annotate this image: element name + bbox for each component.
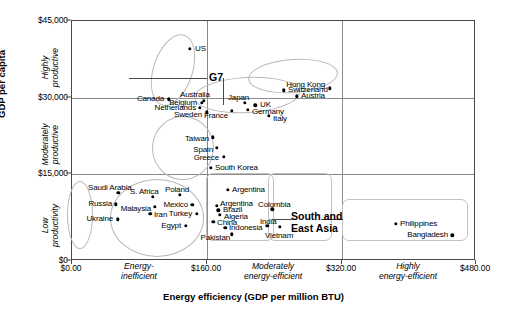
data-point-germany [246, 108, 249, 111]
x-band-moderately-energy-efficient: Moderately energy-efficient [244, 262, 302, 282]
point-label-south-korea: South Korea [215, 164, 258, 172]
point-label-poland: Poland [165, 186, 189, 194]
data-point-france [230, 109, 233, 112]
data-point-china [212, 220, 215, 223]
data-point-australia [202, 99, 205, 102]
data-point-bangladesh [451, 234, 454, 237]
data-point-brazil [217, 209, 220, 212]
data-point-argentina [215, 204, 218, 207]
gridline-x-320 [342, 21, 343, 259]
point-label-egypt: Egypt [161, 222, 181, 230]
data-point-iran [149, 212, 152, 215]
x-tick-0: $0.00 [61, 263, 82, 273]
x-tick-160: $160.00 [191, 263, 221, 273]
point-label-colombia: Colombia [258, 201, 291, 209]
data-point-hong-kong [328, 86, 331, 89]
point-label-argentina-upper: Argentina [232, 186, 265, 194]
point-label-saudi-arabia: Saudi Arabia [88, 184, 132, 192]
data-point-malaysia [153, 205, 156, 208]
data-point-algeria [218, 213, 221, 216]
data-point-mexico [191, 203, 194, 206]
leader-g7-vertical [223, 78, 224, 105]
data-point-turkey [195, 212, 198, 215]
x-tick-480: $480.00 [460, 263, 490, 273]
data-point-argentina-upper [226, 188, 229, 191]
data-point-philippines [394, 222, 397, 225]
plot-area: G7 South and East Asia US Canada Belgium… [71, 20, 475, 260]
gridline-y-15000 [72, 174, 474, 175]
data-point-indonesia [223, 226, 226, 229]
data-point-italy [267, 114, 270, 117]
energy-efficiency-scatter-chart: GDP per capita $45,000 $30,000 $15,000 $… [0, 0, 507, 313]
point-label-malaysia: Malaysia [121, 205, 151, 213]
x-tick-320: $320.00 [326, 263, 356, 273]
data-point-south-korea [209, 166, 212, 169]
data-point-spain [215, 146, 218, 149]
y-band-moderately-productive: Moderately productive [41, 115, 60, 175]
y-band-low-productivity: Low productivity [41, 196, 60, 256]
data-point-ukraine [116, 218, 119, 221]
data-point-vietnam [278, 225, 281, 228]
point-label-greece: Greece [194, 154, 219, 162]
leader-g7-horizontal [129, 78, 207, 79]
point-label-france: France [204, 112, 228, 120]
point-label-vietnam: Vietnam [265, 232, 293, 240]
data-point-us [188, 47, 191, 50]
point-label-japan: Japan [228, 94, 249, 102]
data-point-taiwan [211, 136, 214, 139]
point-label-turkey: Turkey [169, 210, 192, 218]
point-label-italy: Italy [273, 115, 287, 123]
data-point-greece [222, 155, 225, 158]
point-label-iran: Iran [154, 211, 167, 219]
annotation-g7: G7 [209, 71, 223, 83]
x-band-energy-inefficient: Energy- inefficient [121, 262, 157, 282]
point-label-bangladesh: Bangladesh [407, 231, 448, 239]
point-label-hong-kong: Hong Kong [286, 81, 325, 89]
point-label-sweden: Sweden [174, 111, 202, 119]
point-label-us: US [195, 45, 206, 53]
y-band-highly-productive: Highly productive [41, 38, 60, 98]
point-label-s-africa: S. Africa [130, 188, 158, 196]
point-label-indonesia: Indonesia [229, 224, 262, 232]
data-point-switzerland [282, 89, 285, 92]
point-label-philippines: Philippines [400, 220, 437, 228]
y-tick-45000: $45,000 [38, 15, 68, 25]
point-label-austria: Austria [301, 92, 325, 100]
x-axis-title: Energy efficiency (GDP per million BTU) [0, 291, 507, 302]
point-label-ukraine: Ukraine [86, 215, 113, 223]
point-label-taiwan: Taiwan [185, 135, 209, 143]
point-label-australia: Australia [180, 91, 210, 99]
point-label-pakistan: Pakistan [201, 234, 230, 242]
point-label-russia: Russia [88, 200, 112, 208]
gridline-y-30000 [72, 98, 474, 99]
data-point-egypt [184, 224, 187, 227]
annotation-south-east-asia: South and East Asia [291, 210, 323, 234]
point-label-india: India [260, 218, 277, 226]
data-point-pakistan [230, 233, 233, 236]
x-band-highly-energy-efficient: Highly energy-efficient [379, 262, 437, 282]
data-point-russia [114, 203, 117, 206]
